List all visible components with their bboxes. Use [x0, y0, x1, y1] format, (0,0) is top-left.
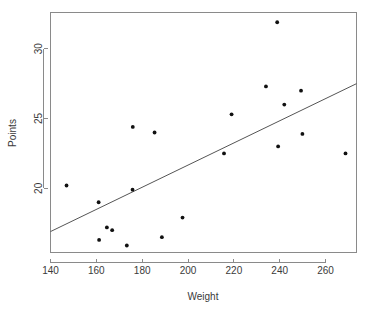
data-point [97, 238, 101, 242]
data-point [125, 244, 129, 248]
data-point [105, 225, 109, 229]
data-point [222, 152, 226, 156]
x-tick-label: 260 [317, 265, 334, 276]
data-point [301, 132, 305, 136]
x-tick-label: 220 [226, 265, 243, 276]
data-point [344, 152, 348, 156]
data-point [276, 145, 280, 149]
chart-canvas: 140160180200220240260 202530 Weight Poin… [0, 0, 371, 315]
x-tick-label: 140 [42, 265, 59, 276]
data-point [110, 228, 114, 232]
data-point [282, 103, 286, 107]
scatter-plot-figure: 140160180200220240260 202530 Weight Poin… [0, 0, 371, 315]
x-tick-label: 200 [180, 265, 197, 276]
x-tick-label: 240 [271, 265, 288, 276]
data-point [181, 216, 185, 220]
data-point [160, 235, 164, 239]
data-point [264, 85, 268, 89]
data-point [230, 112, 234, 116]
y-tick-label: 20 [33, 182, 44, 194]
x-axis-title: Weight [188, 291, 219, 302]
x-tick-label: 180 [134, 265, 151, 276]
y-axis-title: Points [7, 119, 18, 147]
data-point [97, 200, 101, 204]
data-point [131, 125, 135, 129]
data-point [299, 89, 303, 93]
data-point [65, 184, 69, 188]
data-point [131, 188, 135, 192]
x-tick-label: 160 [88, 265, 105, 276]
data-point [153, 131, 157, 135]
y-tick-label: 30 [33, 43, 44, 55]
y-tick-label: 25 [33, 113, 44, 125]
data-point [275, 20, 279, 24]
